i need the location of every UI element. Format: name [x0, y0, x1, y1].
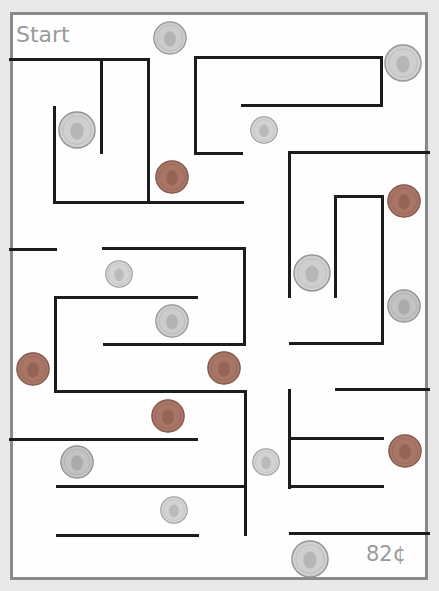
- maze-wall: [288, 485, 384, 488]
- maze-wall: [288, 437, 384, 440]
- maze-worksheet: Start 82¢: [0, 0, 439, 591]
- nickel-coin-icon: [60, 445, 94, 479]
- maze-wall: [53, 201, 244, 204]
- maze-wall: [9, 248, 57, 251]
- maze-wall: [381, 195, 384, 345]
- penny-coin-icon: [388, 434, 422, 468]
- quarter-coin-icon: [58, 111, 96, 149]
- maze-wall: [147, 58, 150, 204]
- half-dollar-coin-icon: [155, 304, 189, 338]
- penny-coin-icon: [387, 184, 421, 218]
- start-label: Start: [16, 22, 70, 47]
- maze-wall: [56, 485, 247, 488]
- maze-wall: [194, 56, 383, 59]
- penny-coin-icon: [155, 160, 189, 194]
- maze-wall: [53, 106, 56, 204]
- total-amount-label: 82¢: [366, 542, 406, 566]
- maze-wall: [9, 438, 198, 441]
- quarter-coin-icon: [293, 254, 331, 292]
- maze-wall: [54, 296, 57, 393]
- maze-wall: [288, 151, 291, 298]
- maze-wall: [54, 296, 198, 299]
- half-dollar-coin-icon: [153, 21, 187, 55]
- dime-coin-icon: [105, 260, 133, 288]
- maze-wall: [100, 58, 103, 154]
- penny-coin-icon: [151, 399, 185, 433]
- maze-wall: [54, 390, 247, 393]
- maze-wall: [102, 247, 246, 250]
- penny-coin-icon: [16, 352, 50, 386]
- maze-wall: [380, 56, 383, 107]
- maze-wall: [288, 151, 430, 154]
- maze-wall: [241, 104, 383, 107]
- maze-wall: [334, 195, 384, 198]
- maze-wall: [335, 388, 430, 391]
- maze-wall: [103, 343, 246, 346]
- dime-coin-icon: [250, 116, 278, 144]
- maze-wall: [243, 247, 246, 346]
- quarter-coin-icon: [384, 44, 422, 82]
- quarter-coin-icon: [291, 540, 329, 578]
- maze-wall: [194, 56, 197, 155]
- dime-coin-icon: [160, 496, 188, 524]
- maze-wall: [194, 152, 243, 155]
- maze-wall: [334, 195, 337, 298]
- maze-wall: [244, 390, 247, 536]
- maze-wall: [289, 342, 384, 345]
- maze-wall: [9, 58, 150, 61]
- nickel-coin-icon: [387, 289, 421, 323]
- dime-coin-icon: [252, 448, 280, 476]
- penny-coin-icon: [207, 351, 241, 385]
- maze-wall: [56, 534, 199, 537]
- maze-wall: [289, 532, 430, 535]
